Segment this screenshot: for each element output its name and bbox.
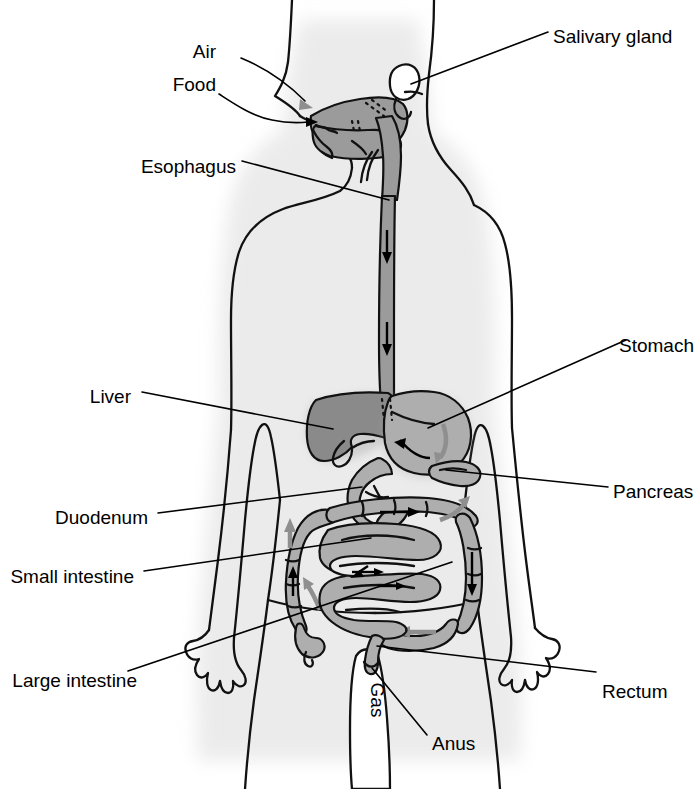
label-stomach: Stomach — [619, 335, 694, 356]
diagram-canvas: Air Food Esophagus Liver Duodenum Small … — [0, 0, 697, 789]
digestive-system-diagram: Air Food Esophagus Liver Duodenum Small … — [0, 0, 697, 789]
label-small-intestine: Small intestine — [10, 566, 134, 587]
label-air: Air — [193, 41, 217, 62]
label-rectum: Rectum — [602, 681, 667, 702]
label-salivary-gland: Salivary gland — [553, 26, 672, 47]
label-gas: Gas — [367, 683, 388, 718]
label-pancreas: Pancreas — [613, 481, 693, 502]
label-food: Food — [173, 74, 216, 95]
label-large-intestine: Large intestine — [12, 670, 137, 691]
label-liver: Liver — [90, 386, 132, 407]
label-anus: Anus — [432, 733, 475, 754]
label-esophagus: Esophagus — [141, 156, 236, 177]
esophagus-organ — [379, 196, 395, 404]
label-duodenum: Duodenum — [55, 507, 148, 528]
